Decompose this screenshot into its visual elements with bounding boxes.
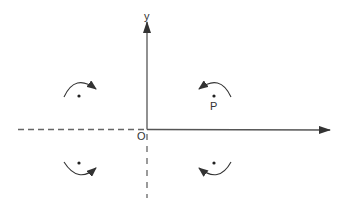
point-dot: [77, 94, 80, 97]
coordinate-diagram: [0, 0, 354, 209]
x-axis-positive: [147, 130, 330, 131]
point-dot: [212, 161, 215, 164]
rotation-marker-q1: [199, 83, 231, 98]
rotation-marker-q2: [64, 83, 96, 98]
rotation-marker-q4: [199, 161, 231, 174]
origin-label: O: [137, 131, 146, 142]
rotation-marker-q3: [64, 161, 96, 174]
point-dot: [77, 161, 80, 164]
point-dot: [212, 94, 215, 97]
point-p-label: P: [210, 101, 217, 112]
y-axis-label: y: [144, 11, 150, 22]
